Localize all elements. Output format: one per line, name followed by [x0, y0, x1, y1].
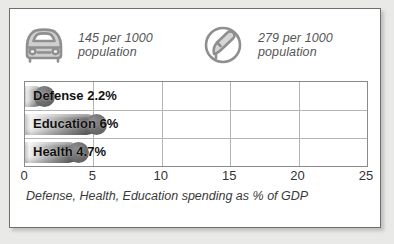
stats-strip: 145 per 1000 population 279 per 1000 pop…	[10, 9, 380, 79]
stat-car: 145 per 1000 population	[20, 23, 153, 67]
x-axis: 0510152025	[24, 168, 368, 186]
x-tick-label: 20	[290, 168, 304, 183]
infographic-card: 145 per 1000 population 279 per 1000 pop…	[9, 8, 381, 228]
x-tick-label: 15	[222, 168, 236, 183]
car-icon	[20, 23, 68, 67]
bar-row: Health 4.7%	[25, 138, 367, 166]
x-tick-label: 10	[154, 168, 168, 183]
chart-caption: Defense, Health, Education spending as %…	[26, 189, 308, 203]
x-tick-label: 25	[359, 168, 373, 183]
bar-label-health: Health 4.7%	[33, 138, 106, 166]
stat-telephone-text: 279 per 1000 population	[258, 31, 333, 59]
telephone-icon	[200, 23, 248, 67]
bar-chart-plot: Defense 2.2%Education 6%Health 4.7%	[24, 81, 368, 167]
x-tick-label: 5	[89, 168, 96, 183]
stat-car-text: 145 per 1000 population	[78, 31, 153, 59]
bar-label-education: Education 6%	[33, 110, 118, 138]
bar-row: Education 6%	[25, 110, 367, 138]
stat-telephone: 279 per 1000 population	[200, 23, 333, 67]
bar-row: Defense 2.2%	[25, 82, 367, 110]
x-tick-label: 0	[20, 168, 27, 183]
bar-label-defense: Defense 2.2%	[33, 82, 117, 110]
